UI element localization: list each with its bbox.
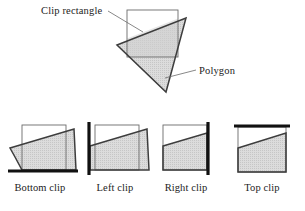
polygon-clipping-figure: Clip rectangle Polygon Bottom clip Left … bbox=[0, 0, 305, 211]
figure-canvas: Clip rectangle Polygon Bottom clip Left … bbox=[0, 0, 305, 211]
polygon-label: Polygon bbox=[199, 65, 236, 76]
stage-left-clip-caption: Left clip bbox=[97, 182, 134, 193]
stage-top-clip-caption: Top clip bbox=[244, 182, 279, 193]
stage-bottom-clip-caption: Bottom clip bbox=[15, 182, 66, 193]
stage-right-clip-caption: Right clip bbox=[165, 182, 208, 193]
clip-rectangle-label: Clip rectangle bbox=[41, 5, 102, 16]
